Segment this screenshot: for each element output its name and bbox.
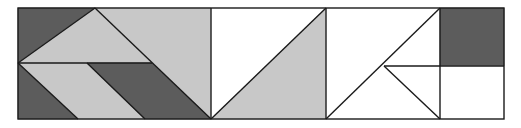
dark-square	[440, 8, 504, 66]
white-square	[440, 66, 504, 119]
tangram-diagram	[0, 0, 521, 128]
